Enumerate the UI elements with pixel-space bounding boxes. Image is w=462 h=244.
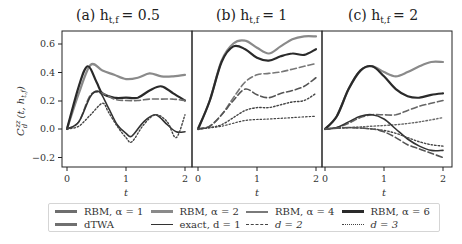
- panel-title-a: (a) ht,f= 0.5: [76, 7, 160, 25]
- legend-item-exact-d1: exact, d = 1: [149, 218, 245, 231]
- svg-text:1: 1: [381, 173, 387, 184]
- svg-text:1: 1: [123, 173, 129, 184]
- x-axis-b: 0 1 2 t: [195, 167, 319, 198]
- data-series-line: [67, 64, 185, 129]
- panel-c-frame: [322, 31, 452, 167]
- legend-item-rbm-alpha-6: RBM, α = 6: [340, 205, 436, 218]
- legend: RBM, α = 1 RBM, α = 2 RBM, α = 4 RBM, α …: [48, 203, 440, 232]
- y-axis-label: Cdzz(t, ht,f): [14, 86, 29, 136]
- legend-item-rbm-alpha-2: RBM, α = 2: [149, 205, 245, 218]
- data-series-line: [325, 128, 443, 147]
- panel-title-c: (c) ht,f= 2: [348, 7, 418, 25]
- legend-item-dtwa: dTWA: [53, 218, 149, 231]
- svg-text:0: 0: [322, 173, 328, 184]
- data-series-line: [325, 115, 443, 151]
- y-tick-label: 0.6: [40, 38, 55, 49]
- y-tick-label: 0.4: [40, 67, 55, 78]
- panel-title-b: (b) ht,f= 1: [216, 7, 287, 25]
- panel-a-curves: [67, 64, 185, 143]
- legend-item-d3: d = 3: [340, 218, 436, 231]
- svg-text:t: t: [124, 187, 129, 198]
- data-series-line: [198, 46, 316, 129]
- x-axis-c: 0 1 2 t: [322, 167, 446, 198]
- svg-text:Cdzz(t, ht,f): Cdzz(t, ht,f): [14, 86, 29, 136]
- svg-text:0: 0: [64, 173, 70, 184]
- legend-item-rbm-alpha-4: RBM, α = 4: [244, 205, 340, 218]
- legend-item-rbm-alpha-1: RBM, α = 1: [53, 205, 149, 218]
- panel-c-curves: [325, 62, 443, 158]
- panel-b-curves: [198, 36, 316, 129]
- data-series-line: [198, 93, 316, 129]
- svg-text:1: 1: [254, 173, 260, 184]
- svg-text:0: 0: [195, 173, 201, 184]
- y-tick-label: 0.0: [40, 123, 55, 134]
- svg-text:2: 2: [182, 173, 188, 184]
- svg-text:2: 2: [313, 173, 319, 184]
- svg-text:t: t: [255, 187, 260, 198]
- x-axis-a: 0 1 2 t: [64, 167, 188, 198]
- legend-item-d2: d = 2: [244, 218, 340, 231]
- data-series-line: [198, 116, 316, 129]
- data-series-line: [325, 128, 443, 158]
- svg-text:2: 2: [440, 173, 446, 184]
- y-tick-label: 0.2: [40, 95, 55, 106]
- panel-b-frame: [192, 31, 322, 167]
- data-series-line: [198, 78, 316, 129]
- y-tick-label: −0.2: [32, 152, 55, 163]
- svg-text:t: t: [382, 187, 387, 198]
- y-axis: 0.6 0.4 0.2 0.0 −0.2: [32, 38, 62, 163]
